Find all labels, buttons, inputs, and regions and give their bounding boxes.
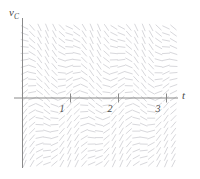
slope-mark xyxy=(156,38,162,42)
slope-mark xyxy=(119,90,125,95)
slope-mark xyxy=(38,24,41,31)
slope-mark xyxy=(67,96,72,101)
slope-mark xyxy=(52,161,57,166)
slope-mark xyxy=(82,154,87,159)
slope-mark xyxy=(88,156,95,158)
slope-mark xyxy=(140,130,147,132)
slope-mark xyxy=(140,156,147,158)
slope-mark xyxy=(66,65,73,67)
slope-mark xyxy=(118,33,125,36)
slope-mark xyxy=(96,110,102,113)
slope-mark xyxy=(81,71,87,75)
slope-mark xyxy=(112,122,116,128)
slope-mark xyxy=(74,109,79,114)
slope-mark xyxy=(104,142,109,147)
slope-mark xyxy=(82,24,86,30)
slope-mark xyxy=(60,141,64,147)
slope-mark xyxy=(142,70,146,76)
slope-mark xyxy=(36,104,43,107)
slope-mark xyxy=(170,97,176,101)
slope-mark xyxy=(51,130,58,131)
slope-mark xyxy=(104,135,110,140)
slope-mark xyxy=(23,134,27,140)
slope-mark xyxy=(59,25,64,30)
slope-mark xyxy=(52,64,57,69)
slope-mark xyxy=(164,122,168,128)
slope-mark xyxy=(45,90,50,95)
slope-mark xyxy=(30,148,34,154)
slope-mark xyxy=(112,160,115,167)
slope-mark xyxy=(74,25,80,29)
slope-mark xyxy=(29,38,34,43)
slope-mark xyxy=(120,160,123,167)
slope-mark xyxy=(90,31,93,38)
slope-mark xyxy=(98,31,101,38)
slope-mark xyxy=(119,128,123,134)
slope-mark xyxy=(119,109,124,115)
slope-mark xyxy=(149,50,153,56)
slope-mark xyxy=(46,24,49,31)
slope-mark xyxy=(142,57,146,63)
slope-mark xyxy=(29,122,34,127)
slope-mark xyxy=(37,90,43,94)
slope-mark xyxy=(96,124,103,126)
slope-mark xyxy=(96,162,102,165)
slope-mark xyxy=(133,124,140,125)
slope-mark xyxy=(53,24,56,30)
slope-mark xyxy=(171,32,177,36)
slope-mark xyxy=(95,144,102,145)
slope-mark xyxy=(157,154,161,160)
slope-mark xyxy=(36,143,43,145)
slope-mark xyxy=(103,123,109,127)
slope-mark xyxy=(164,147,167,154)
slope-mark xyxy=(142,31,145,38)
slope-mark xyxy=(172,147,176,153)
slope-mark xyxy=(75,147,79,153)
slope-mark xyxy=(58,59,65,62)
slope-mark xyxy=(45,63,49,69)
slope-mark xyxy=(127,154,131,160)
slope-mark xyxy=(142,37,145,44)
slope-mark xyxy=(111,32,117,35)
slope-mark xyxy=(142,44,145,50)
slope-mark xyxy=(126,31,131,36)
slope-mark xyxy=(73,72,80,73)
slope-mark xyxy=(30,25,35,30)
slope-mark xyxy=(29,104,36,107)
slope-mark xyxy=(81,84,88,87)
slope-mark xyxy=(163,84,169,88)
slope-mark xyxy=(29,51,35,55)
slope-mark xyxy=(29,110,35,114)
slope-mark xyxy=(89,76,93,82)
slope-mark xyxy=(45,70,49,76)
slope-mark xyxy=(135,37,138,43)
slope-mark xyxy=(29,45,35,49)
slope-mark xyxy=(141,103,147,108)
slope-mark xyxy=(148,77,154,82)
slope-mark xyxy=(97,50,101,56)
slope-mark xyxy=(30,154,34,160)
slope-mark xyxy=(156,25,161,30)
slope-mark xyxy=(163,65,170,67)
slope-mark xyxy=(104,51,109,56)
slope-mark xyxy=(164,115,168,121)
slope-mark xyxy=(156,122,161,127)
slope-mark xyxy=(112,128,116,134)
slope-mark xyxy=(59,122,64,127)
slope-mark xyxy=(73,84,80,87)
slope-mark xyxy=(90,37,93,44)
slope-mark xyxy=(23,128,27,134)
slope-mark xyxy=(74,32,80,36)
slope-mark xyxy=(135,24,138,31)
slope-mark xyxy=(53,31,56,37)
slope-mark xyxy=(44,96,49,101)
slope-mark xyxy=(68,134,71,140)
slope-mark xyxy=(127,25,132,31)
slope-mark xyxy=(103,78,110,81)
slope-mark xyxy=(148,124,155,125)
slope-mark xyxy=(74,103,80,108)
slope-mark xyxy=(120,134,124,140)
slope-mark xyxy=(165,154,168,161)
slope-mark xyxy=(23,147,26,153)
slope-mark xyxy=(96,117,103,120)
